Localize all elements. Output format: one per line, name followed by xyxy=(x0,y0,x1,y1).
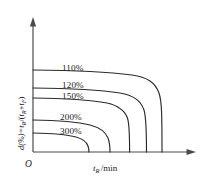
svg-text:d(%)=tR/(tR+tF): d(%)=tR/(tR+tF) xyxy=(17,96,27,150)
x-axis-label-subscript: R xyxy=(95,167,100,174)
origin-label: O xyxy=(25,159,32,169)
y-axis-label: d(%)=tR/(tR+tF) xyxy=(17,96,27,150)
series-label-150: 150% xyxy=(62,91,84,101)
x-axis-label: tR/min xyxy=(93,163,118,174)
y-axis-arrow-icon xyxy=(30,17,36,27)
series-label-200: 200% xyxy=(60,112,82,122)
x-axis-label-unit: /min xyxy=(101,163,118,173)
y-axis-label-close: ) xyxy=(17,96,26,99)
series-label-300: 300% xyxy=(60,126,82,136)
y-axis-label-lead: d(%)= xyxy=(17,128,26,150)
chart-figure: 110% 120% 150% 200% 300% O tR/min d(%)=t… xyxy=(0,0,202,187)
svg-text:tR/min: tR/min xyxy=(93,163,118,174)
x-axis-arrow-icon xyxy=(187,149,197,155)
curve-110 xyxy=(33,70,162,152)
series-label-120: 120% xyxy=(62,80,84,90)
series-label-110: 110% xyxy=(62,63,84,73)
curve-150 xyxy=(33,98,130,152)
chart-plot-area: 110% 120% 150% 200% 300% O tR/min d(%)=t… xyxy=(0,0,202,187)
